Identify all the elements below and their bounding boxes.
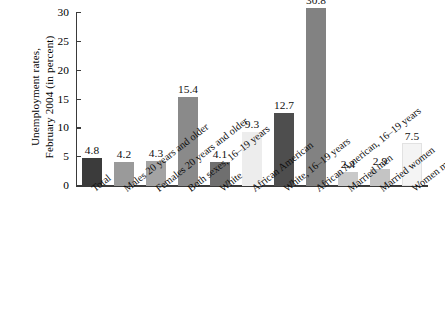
x-axis-tick-label: Total xyxy=(90,186,97,195)
bar-value-label: 15.4 xyxy=(178,83,198,95)
x-axis-tick-labels: TotalMales 20 years and olderFemales 20 … xyxy=(76,186,445,331)
y-axis-tick-mark xyxy=(76,70,81,71)
y-axis-tick-label: 25 xyxy=(58,35,69,47)
x-axis-tick-label: African American xyxy=(250,186,257,195)
bar-value-label: 7.5 xyxy=(405,130,419,142)
x-axis-tick-label: Females 20 years and older xyxy=(154,186,161,195)
y-axis-tick-label: 30 xyxy=(58,6,69,18)
bar-value-label: 30.8 xyxy=(306,0,326,6)
y-axis-tick-mark xyxy=(76,12,81,13)
y-axis-tick-label: 0 xyxy=(63,179,69,191)
x-axis-tick-label: Women maintaining families xyxy=(410,186,417,195)
x-axis-tick-label: African American, 16–19 years xyxy=(314,186,321,195)
y-axis-tick-mark xyxy=(76,156,81,157)
x-axis-tick-label: White, 16–19 years xyxy=(282,186,289,195)
x-axis-tick-label: Married men xyxy=(346,186,353,195)
unemployment-bar-chart: Unemployment rates, February 2004 (in pe… xyxy=(0,0,445,331)
y-axis-tick-label: 15 xyxy=(58,93,69,105)
bar-value-label: 4.2 xyxy=(117,148,131,160)
plot-area: 051015202530 4.84.24.315.44.19.312.730.8… xyxy=(76,12,428,186)
y-axis-tick-mark xyxy=(76,41,81,42)
y-axis-tick-label: 5 xyxy=(63,150,69,162)
bar-value-label: 4.8 xyxy=(85,144,99,156)
x-axis-tick-label: Married women xyxy=(378,186,385,195)
y-axis-tick-mark xyxy=(76,99,81,100)
y-axis-tick-label: 10 xyxy=(58,121,69,133)
y-axis-title-line-1: Unemployment rates, xyxy=(30,48,41,146)
y-axis-title-line-2: February 2004 (in percent) xyxy=(44,36,55,159)
x-axis-tick-label: Both sexes, 16–19 years xyxy=(186,186,193,195)
x-axis-tick-label: White xyxy=(218,186,225,195)
y-axis-tick-mark xyxy=(76,127,81,128)
y-axis-tick-label: 20 xyxy=(58,64,69,76)
x-axis-tick-label: Males 20 years and older xyxy=(122,186,129,195)
bar-value-label: 12.7 xyxy=(274,99,294,111)
